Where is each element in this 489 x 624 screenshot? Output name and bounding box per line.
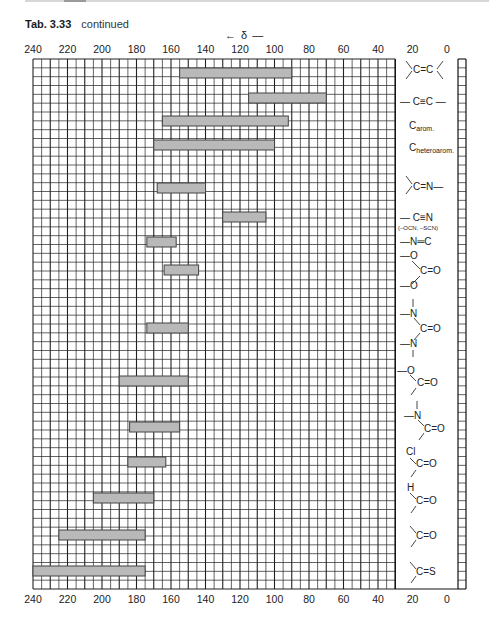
range-bar [147,237,176,247]
range-bar [128,457,166,467]
thione-bonds-icon [404,560,434,590]
carbonate-bonds-icon [408,258,438,298]
label-nitrile-note: (–OCN, –SCN) [398,225,438,231]
ester-bonds-icon [404,372,434,402]
range-bar [119,376,188,386]
range-bar [249,93,327,103]
ketone-bonds-icon [404,524,434,554]
label-alkyne: — C≡C — [400,97,446,107]
range-bar [130,422,180,432]
range-bar [154,140,275,150]
range-bar [180,68,292,78]
range-bar [157,183,205,193]
range-bar [223,212,266,222]
label-arom: Carom. [409,121,434,132]
range-bar [59,530,145,540]
aldehyde-bonds-icon [404,491,434,521]
label-isonitrile: —N═C [400,237,432,247]
amide-bonds-icon [408,400,438,444]
range-bar [147,323,188,333]
range-bar [164,265,199,275]
label-nitrile: — C≡N [400,213,433,223]
urea-bonds-icon [404,298,434,358]
range-bar [93,493,153,503]
range-bar [162,116,288,126]
range-bar [33,566,145,576]
label-heteroarom: Cheteroarom. [409,143,454,154]
